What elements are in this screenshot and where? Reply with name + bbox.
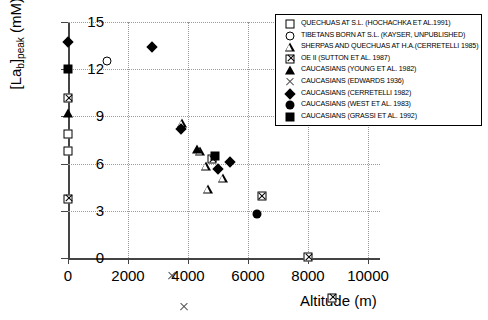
legend-item-5[interactable]: CAUCASIANS (EDWARDS 1936) xyxy=(279,76,479,88)
legend-label: TIBETANS BORN AT S.L. (KAYSER, UNPUBLISH… xyxy=(301,32,465,40)
y-tick-label: 3 xyxy=(96,203,104,218)
legend-item-8[interactable]: CAUCASIANS (GRASSI ET AL. 1992) xyxy=(279,111,479,123)
marker-filled-square xyxy=(286,112,295,121)
legend-symbol xyxy=(279,88,301,100)
legend-symbol xyxy=(279,111,301,123)
x-tick xyxy=(248,258,249,264)
data-point xyxy=(328,293,337,302)
gridline-horizontal xyxy=(68,164,380,165)
legend-label: SHERPAS AND QUECHUAS AT H.A.(CERRETELLI … xyxy=(301,43,478,51)
x-axis-title: Altitude (m) xyxy=(300,292,377,309)
legend-label: CAUCASIANS (CERRETELLI 1982) xyxy=(301,90,411,98)
y-axis-sub-b: b xyxy=(15,63,26,69)
y-tick xyxy=(61,258,68,259)
marker-crossed-square xyxy=(286,54,295,63)
legend-symbol xyxy=(279,30,301,42)
legend-symbol xyxy=(279,99,301,111)
data-point xyxy=(179,301,189,311)
legend-item-2[interactable]: SHERPAS AND QUECHUAS AT H.A.(CERRETELLI … xyxy=(279,41,479,53)
gridline-horizontal xyxy=(68,211,380,212)
marker-filled-diamond xyxy=(284,88,295,99)
y-tick xyxy=(61,22,68,23)
y-axis-title: [Lab]peak (mM) xyxy=(7,50,26,90)
y-axis-line xyxy=(68,22,70,260)
marker-open-square xyxy=(286,20,295,29)
x-tick-label: 10000 xyxy=(328,268,408,283)
y-tick xyxy=(61,164,68,165)
legend-label: QUECHUAS AT S.L. (HOCHACHKA ET AL.1991) xyxy=(301,20,450,28)
legend-item-0[interactable]: QUECHUAS AT S.L. (HOCHACHKA ET AL.1991) xyxy=(279,18,479,30)
y-tick-label: 9 xyxy=(96,108,104,123)
legend-symbol xyxy=(279,41,301,53)
legend-label: OE II (SUTTON ET AL. 1987) xyxy=(301,55,390,63)
gridline-vertical xyxy=(128,22,129,260)
legend-label: CAUCASIANS (EDWARDS 1936) xyxy=(301,78,404,86)
y-tick-label: 15 xyxy=(87,14,104,29)
data-point xyxy=(224,156,235,167)
data-point xyxy=(203,185,213,194)
legend-item-4[interactable]: CAUCASIANS (YOUNG ET AL. 1982) xyxy=(279,64,479,76)
y-tick xyxy=(61,211,68,212)
data-point xyxy=(146,42,157,53)
y-tick-label: 6 xyxy=(96,156,104,171)
legend-label: CAUCASIANS (GRASSI ET AL. 1992) xyxy=(301,113,417,121)
gridline-vertical xyxy=(188,22,189,260)
data-point xyxy=(64,147,73,156)
legend-item-7[interactable]: CAUCASIANS (WEST ET AL. 1983) xyxy=(279,99,479,111)
marker-filled-circle xyxy=(286,101,295,110)
scatter-chart-figure: [Lab]peak (mM) Altitude (m) QUECHUAS AT … xyxy=(0,0,488,320)
legend-label: CAUCASIANS (WEST ET AL. 1983) xyxy=(301,101,411,109)
y-axis-title-text: [Lab]peak (mM) xyxy=(7,0,24,90)
legend-item-3[interactable]: OE II (SUTTON ET AL. 1987) xyxy=(279,53,479,65)
legend-item-6[interactable]: CAUCASIANS (CERRETELLI 1982) xyxy=(279,88,479,100)
gridline-vertical xyxy=(248,22,249,260)
legend-item-1[interactable]: TIBETANS BORN AT S.L. (KAYSER, UNPUBLISH… xyxy=(279,30,479,42)
y-axis-sub-peak: peak xyxy=(15,37,26,59)
legend-symbol xyxy=(279,53,301,65)
data-point xyxy=(64,94,73,103)
legend-symbol xyxy=(279,64,301,76)
data-point xyxy=(211,151,220,160)
chart-legend: QUECHUAS AT S.L. (HOCHACHKA ET AL.1991)T… xyxy=(275,14,482,126)
x-tick xyxy=(68,258,69,264)
legend-label: CAUCASIANS (YOUNG ET AL. 1982) xyxy=(301,66,416,74)
legend-symbol xyxy=(279,18,301,30)
x-axis-line xyxy=(68,258,380,260)
marker-filled-triangle xyxy=(285,66,295,75)
legend-symbol xyxy=(279,76,301,88)
x-tick xyxy=(368,258,369,264)
data-point xyxy=(218,173,228,182)
data-point xyxy=(64,194,73,203)
data-point xyxy=(62,37,73,48)
y-tick-label: 12 xyxy=(87,61,104,76)
data-point xyxy=(192,145,202,154)
data-point xyxy=(64,129,73,138)
marker-open-triangle xyxy=(285,43,295,52)
data-point xyxy=(304,253,313,262)
data-point xyxy=(63,109,73,118)
x-tick xyxy=(128,258,129,264)
marker-cross-x xyxy=(285,77,295,87)
data-point xyxy=(253,209,262,218)
data-point xyxy=(257,192,266,201)
y-tick-label: 0 xyxy=(96,250,104,265)
x-tick xyxy=(188,258,189,264)
data-point xyxy=(64,65,73,74)
marker-open-circle xyxy=(286,31,295,40)
